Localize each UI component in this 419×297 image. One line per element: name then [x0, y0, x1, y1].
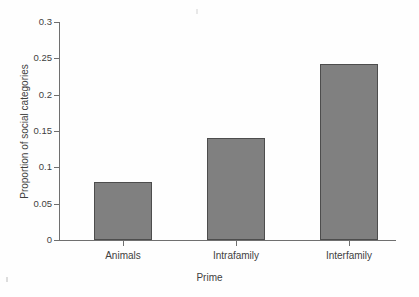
plot-area: 0.3 0.25 0.2 0.15 0.1 0.05 0	[0, 0, 419, 297]
x-tick-label-animals: Animals	[68, 250, 178, 262]
y-tick-mark-0.15	[54, 131, 59, 132]
y-tick-mark-0	[54, 240, 59, 241]
x-tick-mark-animals	[123, 241, 124, 246]
bar-interfamily[interactable]	[320, 64, 378, 240]
y-axis-title: Proportion of social categories	[19, 32, 30, 232]
y-tick-mark-0.25	[54, 58, 59, 59]
y-tick-label-0.3-wrap: 0.3	[0, 17, 52, 27]
y-tick-label-0.3: 0.3	[4, 17, 52, 27]
bar-intrafamily[interactable]	[207, 138, 265, 240]
scan-artifact-top	[196, 9, 198, 14]
x-tick-label-interfamily: Interfamily	[294, 250, 404, 262]
y-tick-label-0-wrap: 0	[0, 235, 52, 245]
x-tick-mark-interfamily	[349, 241, 350, 246]
x-tick-mark-intrafamily	[236, 241, 237, 246]
x-tick-label-intrafamily: Intrafamily	[181, 250, 291, 262]
y-tick-label-0: 0	[4, 235, 52, 245]
y-tick-mark-0.1	[54, 167, 59, 168]
scan-artifact-left	[6, 277, 8, 282]
x-axis-title: Prime	[0, 272, 419, 283]
bar-animals[interactable]	[94, 182, 152, 240]
y-axis-line	[59, 22, 60, 241]
x-axis-line	[59, 240, 396, 241]
y-tick-mark-0.05	[54, 204, 59, 205]
y-tick-mark-0.3	[54, 22, 59, 23]
bar-chart-figure: 0.3 0.25 0.2 0.15 0.1 0.05 0	[0, 0, 419, 297]
y-tick-mark-0.2	[54, 95, 59, 96]
